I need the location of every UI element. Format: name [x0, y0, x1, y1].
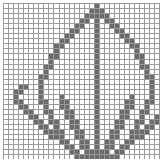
chart-grid-container [3, 3, 153, 149]
cross-stitch-pattern-chart [0, 0, 160, 159]
stitch-grid-row [4, 155, 161, 159]
stitch-grid-body [4, 4, 161, 160]
stitch-grid [3, 3, 160, 159]
